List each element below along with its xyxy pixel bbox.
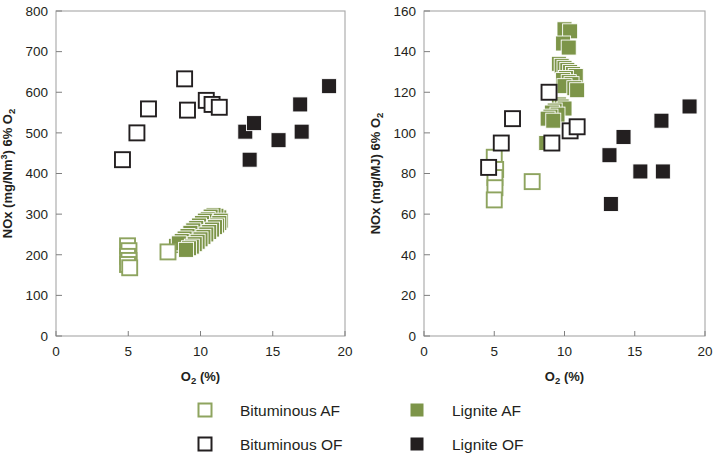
data-point [654,113,669,128]
data-point [242,152,257,167]
y-tick-label: 400 [25,166,48,181]
y-tick-label: 160 [393,4,416,19]
data-point [525,174,540,189]
y-tick-label: 40 [401,248,416,263]
legend-marker-filled [411,438,424,451]
y-tick-label: 800 [25,4,48,19]
y-axis-title-text: NOx (mg/MJ) 6% O2 [368,113,385,235]
legend-marker-open [199,404,212,417]
data-point [481,160,496,175]
data-point [177,71,192,86]
plot-area-frame [56,11,345,336]
x-tick-label: 15 [265,344,280,359]
x-tick-label: 10 [557,344,572,359]
data-point [546,113,561,128]
y-tick-label: 0 [40,329,48,344]
data-point [294,124,309,139]
data-point [682,99,697,114]
y-axis-title-text: NOx (mg/Nm3) 6% O2 [0,109,17,239]
y-tick-label: 60 [401,207,416,222]
y-tick-label: 500 [25,126,48,141]
legend-marker-open [199,438,212,451]
y-axis-title: NOx (mg/MJ) 6% O2 [368,113,385,235]
data-point [322,79,337,94]
data-point [129,125,144,140]
data-point [293,97,308,112]
data-point [122,260,137,275]
chart-panel-right: 02040608010012014016005101520O2 (%)NOx (… [368,0,727,395]
legend-label: Lignite OF [452,436,524,453]
data-point [544,136,559,151]
chart-panel-left: 010020030040050060070080005101520O2 (%)N… [0,0,368,395]
data-point [603,196,618,211]
scatter-chart-left: 010020030040050060070080005101520O2 (%)N… [0,0,368,395]
data-point [542,85,557,100]
y-tick-label: 20 [401,288,416,303]
data-point [212,100,227,115]
figure-legend: Bituminous AFLignite AFBituminous OFLign… [0,392,727,465]
data-point [633,164,648,179]
x-tick-label: 20 [337,344,352,359]
x-axis-title: O2 (%) [545,369,584,386]
y-tick-label: 0 [408,329,416,344]
legend-label: Lignite AF [452,402,521,419]
legend-marker-filled [411,404,424,417]
scatter-chart-right: 02040608010012014016005101520O2 (%)NOx (… [368,0,727,395]
legend-svg: Bituminous AFLignite AFBituminous OFLign… [0,392,727,465]
data-point [561,40,576,55]
y-tick-label: 100 [25,288,48,303]
y-axis-title: NOx (mg/Nm3) 6% O2 [0,109,17,239]
y-tick-label: 80 [401,166,416,181]
legend-bituminous-of: Bituminous OF [199,436,343,453]
y-tick-label: 100 [393,126,416,141]
y-tick-label: 700 [25,44,48,59]
legend-lignite-af: Lignite AF [411,402,521,419]
x-tick-label: 5 [490,344,498,359]
legend-bituminous-af: Bituminous AF [199,402,340,419]
legend-label: Bituminous OF [240,436,343,453]
figure-root: 010020030040050060070080005101520O2 (%)N… [0,0,727,465]
legend-label: Bituminous AF [240,402,340,419]
data-point [246,116,261,131]
x-tick-label: 15 [627,344,642,359]
data-point [570,83,585,98]
x-tick-label: 20 [697,344,712,359]
x-tick-label: 0 [420,344,428,359]
y-tick-label: 120 [393,85,416,100]
data-point [179,242,194,257]
data-point [115,152,130,167]
x-axis-title: O2 (%) [181,369,220,386]
y-tick-label: 140 [393,44,416,59]
data-point [655,164,670,179]
y-tick-label: 200 [25,248,48,263]
x-tick-label: 5 [124,344,132,359]
legend-lignite-of: Lignite OF [411,436,524,453]
data-point [616,129,631,144]
data-point [180,103,195,118]
x-tick-label: 10 [193,344,208,359]
data-point [570,119,585,134]
data-point [602,148,617,163]
data-point [494,136,509,151]
data-point [141,101,156,116]
y-tick-label: 300 [25,207,48,222]
data-point [505,111,520,126]
y-tick-label: 600 [25,85,48,100]
data-point [487,192,502,207]
data-point [160,244,175,259]
data-point [271,133,286,148]
x-tick-label: 0 [52,344,60,359]
